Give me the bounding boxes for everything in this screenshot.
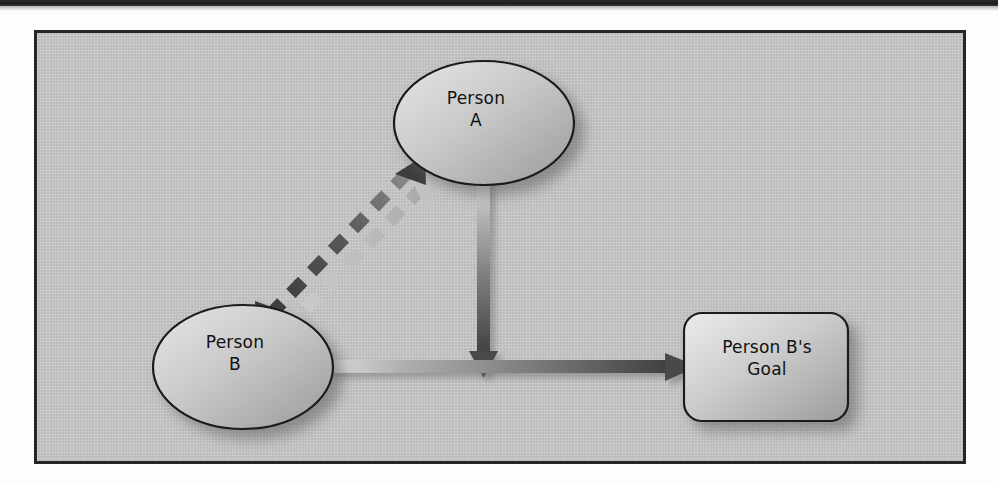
figure-frame: Person A Person B Person B's Goal: [34, 30, 966, 464]
edge-a-to-goal-path: [469, 179, 498, 378]
edge-a-b-bidirectional: [255, 155, 426, 331]
page-root: Person A Person B Person B's Goal: [0, 0, 998, 485]
diagram-canvas: Person A Person B Person B's Goal: [37, 33, 963, 461]
edge-a-b-bidirectional-shadow: [269, 183, 443, 333]
diagram-svg: [37, 33, 963, 461]
node-person-b[interactable]: [153, 305, 333, 429]
edge-b-to-goal: [325, 353, 698, 381]
node-person-b-goal[interactable]: [684, 313, 848, 421]
page-top-scan-bar-fade: [0, 6, 998, 11]
node-person-a[interactable]: [394, 61, 574, 185]
